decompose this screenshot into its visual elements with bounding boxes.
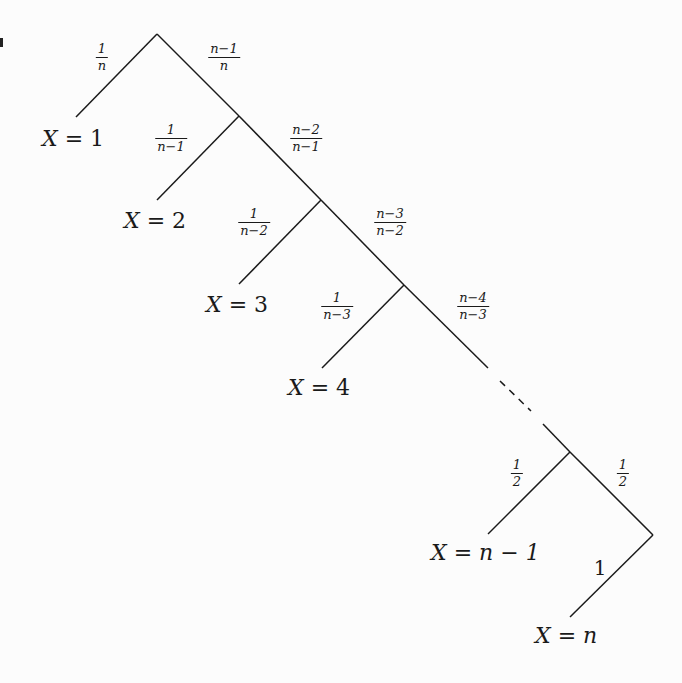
outcome-x-equals-4: X = 4 [288,377,350,399]
prob-label-one: 1 [594,558,607,578]
tree-edges [76,34,653,617]
probability-tree [0,0,682,683]
numerator: 1 [617,458,629,473]
numerator: n−2 [290,123,322,138]
tree-edge [76,34,157,117]
outcome-x-equals-2: X = 2 [124,210,186,232]
tree-edge [488,452,570,534]
numerator: 1 [511,458,523,473]
numerator: 1 [331,291,343,306]
prob-label-1-over-n: 1 n [96,42,108,72]
numerator: 1 [165,123,177,138]
outcome-variable: X [288,375,304,400]
outcome-value: 4 [336,375,350,400]
outcome-x-equals-3: X = 3 [206,294,268,316]
denominator: n−1 [155,139,187,153]
prob-label-n-minus-2-over-n-minus-1: n−2 n−1 [290,123,322,153]
numerator: n−4 [457,291,489,306]
equals-sign: = [304,375,336,400]
denominator: 2 [617,474,629,488]
prob-label-n-minus-3-over-n-minus-2: n−3 n−2 [374,207,406,237]
outcome-variable: X [42,126,58,151]
ellipsis-dashed-edge [500,381,531,411]
denominator: n−2 [238,223,270,237]
denominator: n [96,58,108,72]
numerator: n−3 [374,207,406,222]
prob-label-n-minus-4-over-n-minus-3: n−4 n−3 [457,291,489,321]
outcome-value: 3 [254,292,268,317]
equals-sign: = [447,540,479,565]
prob-label-1-over-n-minus-3: 1 n−3 [321,291,353,321]
outcome-variable: X [124,208,140,233]
equals-sign: = [140,208,172,233]
denominator: 2 [511,474,523,488]
tree-edge [543,424,570,452]
numerator: 1 [248,207,260,222]
denominator: n [218,58,230,72]
outcome-variable: X [206,292,222,317]
outcome-value: n [583,623,597,648]
prob-label-1-over-n-minus-1: 1 n−1 [155,123,187,153]
equals-sign: = [58,126,90,151]
prob-label-n-minus-1-over-n: n−1 n [208,42,240,72]
prob-label-1-over-n-minus-2: 1 n−2 [238,207,270,237]
outcome-value: n − 1 [479,540,540,565]
numerator: n−1 [208,42,240,57]
outcome-variable: X [535,623,551,648]
outcome-variable: X [431,540,447,565]
equals-sign: = [551,623,583,648]
prob-label-one-half-right: 1 2 [617,458,629,488]
denominator: n−2 [374,223,406,237]
denominator: n−3 [321,307,353,321]
equals-sign: = [222,292,254,317]
denominator: n−3 [457,307,489,321]
tree-edge [570,452,653,535]
outcome-x-equals-1: X = 1 [42,128,104,150]
prob-label-one-half-left: 1 2 [511,458,523,488]
outcome-value: 1 [90,126,104,151]
outcome-x-equals-n-minus-1: X = n − 1 [431,542,540,564]
tree-edge [570,535,653,617]
outcome-value: 2 [172,208,186,233]
denominator: n−1 [290,139,322,153]
outcome-x-equals-n: X = n [535,625,597,647]
numerator: 1 [96,42,108,57]
